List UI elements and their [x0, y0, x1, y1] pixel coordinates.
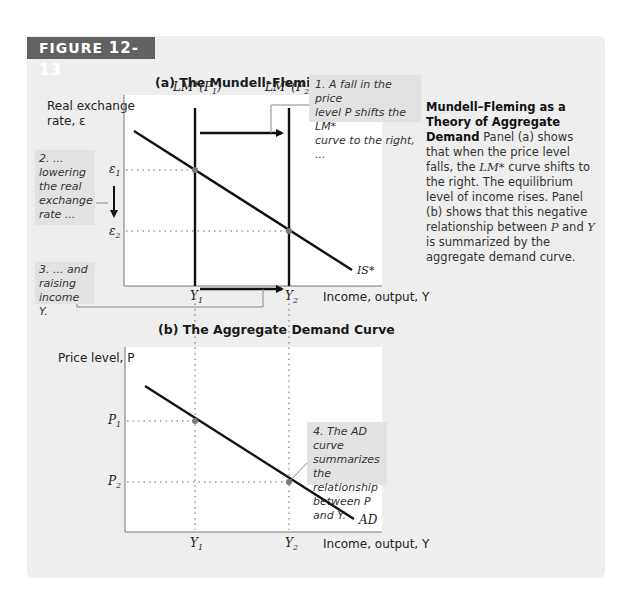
- panel-b-axes: [125, 347, 382, 532]
- panel-b-guides: [127, 421, 289, 482]
- is-curve: [134, 131, 352, 270]
- ad-curve: [145, 386, 354, 519]
- chart-graphics: [0, 0, 631, 601]
- cross-panel-guides: [195, 298, 289, 530]
- figure-caption: Mundell–Fleming as a Theory of Aggregate…: [426, 100, 596, 265]
- panel-a-axes: [124, 95, 382, 286]
